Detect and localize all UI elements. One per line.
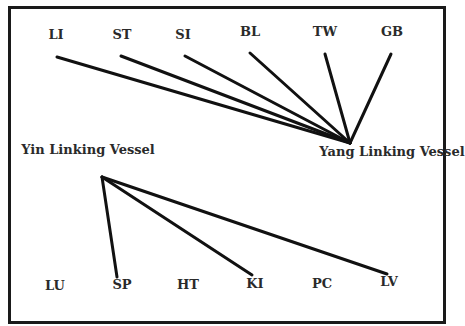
line-st-to-yang: [121, 56, 350, 143]
line-lv-to-yin: [102, 177, 387, 274]
meridian-label-li: LI: [48, 27, 63, 42]
meridian-label-ht: HT: [177, 277, 199, 292]
meridian-label-st: ST: [112, 27, 131, 42]
meridian-label-lu: LU: [45, 278, 65, 293]
meridian-label-lv: LV: [380, 274, 398, 289]
yin-linking-vessel-label: Yin Linking Vessel: [21, 142, 155, 157]
meridian-label-sp: SP: [112, 277, 131, 292]
meridian-label-gb: GB: [381, 24, 403, 39]
yang-linking-vessel-label: Yang Linking Vessel: [319, 144, 464, 159]
line-sp-to-yin: [102, 177, 117, 277]
line-gb-to-yang: [350, 54, 391, 143]
line-li-to-yang: [57, 57, 350, 143]
meridian-label-si: SI: [175, 27, 190, 42]
line-tw-to-yang: [325, 54, 350, 143]
line-ki-to-yin: [102, 177, 252, 275]
meridian-label-pc: PC: [312, 276, 332, 291]
meridian-label-bl: BL: [240, 24, 260, 39]
meridian-label-tw: TW: [313, 24, 337, 39]
meridian-label-ki: KI: [246, 276, 263, 291]
